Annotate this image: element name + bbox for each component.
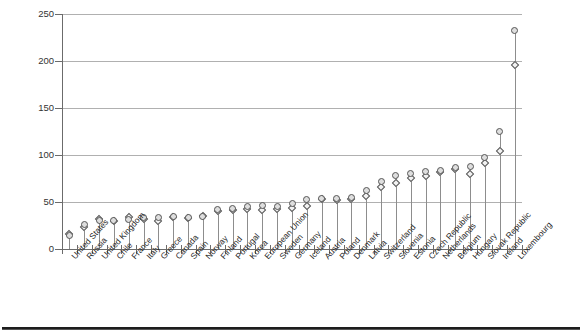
x-tick-0 — [62, 245, 63, 254]
data-point-circle[interactable] — [422, 168, 429, 175]
x-axis-label-russia: Russia — [85, 255, 91, 261]
x-axis-label-ireland: Ireland — [501, 255, 507, 261]
data-point-circle[interactable] — [467, 163, 474, 170]
data-point-circle[interactable] — [81, 221, 88, 228]
x-axis-label-estonia: Estonia — [412, 255, 418, 261]
data-point-circle[interactable] — [274, 203, 281, 210]
data-point-circle[interactable] — [155, 214, 162, 221]
x-axis-label-czech-republic: Czech Republic — [427, 255, 433, 261]
chart-canvas: 050100150200250 United StatesRussiaUnite… — [0, 0, 584, 336]
x-axis-label-spain: Spain — [189, 255, 195, 261]
data-point-circle[interactable] — [289, 200, 296, 207]
data-point-circle[interactable] — [363, 187, 370, 194]
data-point-circle[interactable] — [481, 154, 488, 161]
x-axis-label-finland: Finland — [219, 255, 225, 261]
x-axis-label-germany: Germany — [293, 255, 299, 261]
x-axis-label-austria: Austria — [323, 255, 329, 261]
data-point-circle[interactable] — [244, 203, 251, 210]
gridline-250 — [62, 14, 522, 15]
x-axis-label-slovak-republic: Slovak Republic — [486, 255, 492, 261]
y-tick-label-250: 250 — [14, 9, 54, 19]
data-point-circle[interactable] — [66, 232, 73, 239]
x-axis-label-netherlands: Netherlands — [441, 255, 447, 261]
x-axis-label-italy: Italy — [145, 255, 151, 261]
data-point-circle[interactable] — [496, 128, 503, 135]
bottom-divider-shadow — [2, 329, 580, 330]
data-point-circle[interactable] — [437, 167, 444, 174]
data-point-circle[interactable] — [407, 170, 414, 177]
data-point-circle[interactable] — [511, 27, 518, 34]
data-point-circle[interactable] — [214, 206, 221, 213]
x-axis-label-hungary: Hungary — [471, 255, 477, 261]
y-tick-label-100: 100 — [14, 150, 54, 160]
x-axis-label-united-states: United States — [70, 255, 76, 261]
x-axis-label-latvia: Latvia — [367, 255, 373, 261]
x-axis-label-chile: Chile — [115, 255, 121, 261]
x-axis-label-france: France — [130, 255, 136, 261]
y-tick-label-200: 200 — [14, 56, 54, 66]
data-point-circle[interactable] — [348, 194, 355, 201]
x-axis-label-switzerland: Switzerland — [382, 255, 388, 261]
x-axis-label-portugal: Portugal — [234, 255, 240, 261]
data-point-circle[interactable] — [318, 195, 325, 202]
gridline-150 — [62, 108, 522, 109]
x-axis-label-slovenia: Slovenia — [397, 255, 403, 261]
x-axis-label-sweden: Sweden — [278, 255, 284, 261]
x-axis-label-united-kingdom: United Kingdom — [100, 255, 106, 261]
gridline-100 — [62, 155, 522, 156]
y-tick-label-150: 150 — [14, 103, 54, 113]
x-axis-label-european-union: European Union — [263, 255, 269, 261]
data-point-circle[interactable] — [185, 214, 192, 221]
x-axis-label-luxembourg: Luxembourg — [516, 255, 522, 261]
data-point-circle[interactable] — [170, 213, 177, 220]
data-point-circle[interactable] — [110, 217, 117, 224]
data-point-circle[interactable] — [303, 196, 310, 203]
x-axis-label-iceland: Iceland — [308, 255, 314, 261]
x-axis-label-denmark: Denmark — [352, 255, 358, 261]
data-point-circle[interactable] — [452, 164, 459, 171]
x-axis-label-belgium: Belgium — [456, 255, 462, 261]
y-tick-label-0: 0 — [14, 244, 54, 254]
x-axis-label-poland: Poland — [338, 255, 344, 261]
x-axis-label-greece: Greece — [159, 255, 165, 261]
data-point-circle[interactable] — [333, 195, 340, 202]
y-tick-label-50: 50 — [14, 197, 54, 207]
data-point-circle[interactable] — [259, 202, 266, 209]
gridline-200 — [62, 61, 522, 62]
data-point-circle[interactable] — [229, 205, 236, 212]
data-point-circle[interactable] — [392, 172, 399, 179]
x-axis-label-norway: Norway — [204, 255, 210, 261]
data-point-circle[interactable] — [199, 213, 206, 220]
x-axis-label-canada: Canada — [174, 255, 180, 261]
x-axis-label-korea: Korea — [248, 255, 254, 261]
data-point-circle[interactable] — [378, 178, 385, 185]
y-axis-line — [62, 14, 63, 250]
